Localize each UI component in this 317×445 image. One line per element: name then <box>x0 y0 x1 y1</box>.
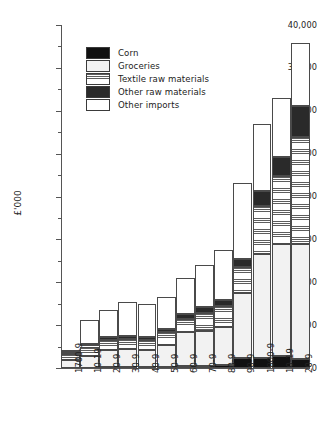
bar-segment-textile-raw-materials <box>118 339 137 349</box>
bar-segment-other-imports <box>157 297 176 329</box>
legend-swatch-groceries-light-stipple <box>86 60 110 72</box>
legend-label: Corn <box>118 48 139 58</box>
bar-80-9 <box>214 250 233 368</box>
bar-segment-textile-raw-materials <box>291 137 310 243</box>
bar-1800-9 <box>253 124 272 368</box>
x-tick-label: 60-9 <box>189 354 199 373</box>
y-axis-title: £'000 <box>13 173 23 233</box>
bar-segment-other-imports <box>253 124 272 192</box>
bar-segment-groceries <box>291 244 310 359</box>
bar-segment-other-raw-materials <box>291 106 310 138</box>
x-tick-label: 20-9 <box>112 354 122 373</box>
legend-swatch-other-raw-dark-stipple <box>86 86 110 98</box>
bar-segment-other-raw-materials <box>253 191 272 205</box>
bar-segment-other-imports <box>272 98 291 157</box>
bar-segment-other-raw-materials <box>272 157 291 177</box>
x-tick-label: 30-9 <box>131 354 141 373</box>
bar-segment-textile-raw-materials <box>176 319 195 332</box>
x-tick-label: 10-19 <box>93 348 103 373</box>
bar-segment-other-imports <box>176 278 195 314</box>
legend-label: Groceries <box>118 61 160 71</box>
bar-segment-textile-raw-materials <box>195 313 214 331</box>
bar-segment-other-raw-materials <box>233 259 252 267</box>
legend-swatch-corn-black <box>86 47 110 59</box>
bar-segment-other-raw-materials <box>99 337 118 340</box>
x-tick-label: 10-19 <box>285 348 295 373</box>
bar-segment-textile-raw-materials <box>214 306 233 327</box>
x-tick-label: 80-9 <box>227 354 237 373</box>
bar-segment-groceries <box>233 293 252 358</box>
bar-segment-other-raw-materials <box>138 337 157 340</box>
bar-segment-other-raw-materials <box>157 329 176 332</box>
bar-segment-textile-raw-materials <box>233 267 252 294</box>
x-tick-label: 1800-9 <box>266 343 276 373</box>
x-tick-label: 70-9 <box>208 354 218 373</box>
x-tick-label: 40-9 <box>151 354 161 373</box>
legend-label: Other raw materials <box>118 87 206 97</box>
bar-segment-groceries <box>272 244 291 356</box>
bar-segment-other-raw-materials <box>118 336 137 339</box>
bar-90-9 <box>233 183 252 368</box>
bar-segment-textile-raw-materials <box>138 340 157 349</box>
bar-segment-other-imports <box>195 265 214 307</box>
bar-segment-other-imports <box>99 310 118 337</box>
legend-label: Other imports <box>118 100 179 110</box>
bar-segment-other-imports <box>214 250 233 300</box>
bar-segment-other-imports <box>80 320 99 344</box>
bar-segment-other-imports <box>118 302 137 336</box>
bar-70-9 <box>195 265 214 368</box>
x-tick-label: 20-9 <box>304 354 314 373</box>
bar-segment-other-raw-materials <box>195 307 214 313</box>
bar-segment-other-raw-materials <box>176 314 195 319</box>
x-tick-label: 1700-9 <box>74 343 84 373</box>
bar-segment-other-imports <box>291 43 310 106</box>
bar-segment-textile-raw-materials <box>253 206 272 254</box>
bar-20-9 <box>291 43 310 368</box>
bar-segment-other-raw-materials <box>214 300 233 306</box>
legend-label: Textile raw materials <box>118 74 209 84</box>
bar-segment-other-imports <box>233 183 252 259</box>
bar-segment-other-imports <box>138 304 157 337</box>
legend-swatch-textile-horizontal-lines <box>86 73 110 85</box>
legend-swatch-other-imports-white <box>86 99 110 111</box>
chart-figure: 0500010,00015,00020,00025,00030,00035,00… <box>0 0 317 445</box>
bar-10-19 <box>272 98 291 368</box>
y-tick-major <box>56 368 62 369</box>
x-tick-label: 90-9 <box>246 354 256 373</box>
bar-segment-textile-raw-materials <box>272 176 291 244</box>
bar-segment-textile-raw-materials <box>157 332 176 345</box>
x-tick-label: 50-9 <box>170 354 180 373</box>
